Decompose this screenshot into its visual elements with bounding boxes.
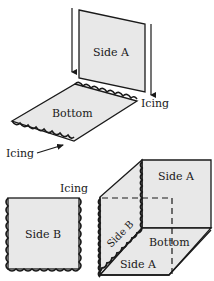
side-b-label: Side B (25, 228, 61, 241)
bottom-label: Bottom (52, 107, 93, 120)
cake-box-assembly-diagram: Side A Bottom Icing Icing Side B Icing (0, 0, 214, 281)
side-a-label: Side A (93, 46, 130, 59)
icing-label-left: Icing (6, 147, 34, 160)
icing-label-top: Icing (60, 182, 88, 195)
step1-group: Side A Bottom Icing Icing (6, 8, 169, 160)
icing-label-right: Icing (141, 97, 169, 110)
step3-group: Side A Side B Bottom Side A (99, 160, 212, 277)
box-back-side-a-label: Side A (158, 170, 195, 183)
step2-group: Side B Icing (6, 182, 88, 271)
box-bottom-label: Bottom (149, 236, 190, 249)
icing-pointer-arrow-icon (37, 145, 63, 153)
box-front-side-a-label: Side A (120, 258, 157, 271)
